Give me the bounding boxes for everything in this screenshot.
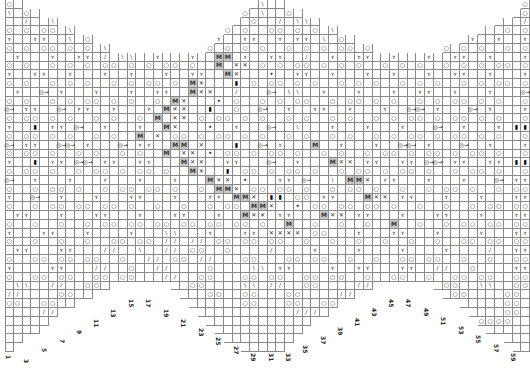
chart-cell xyxy=(259,18,268,27)
chart-cell: M xyxy=(215,185,224,194)
twist-icon: ʏ xyxy=(40,229,48,237)
chart-cell xyxy=(14,185,23,194)
yarn-over-icon: ○ xyxy=(434,79,442,87)
chart-cell: ✕ xyxy=(276,229,285,238)
chart-cell xyxy=(416,185,425,194)
yarn-over-icon: ○ xyxy=(460,290,468,298)
chart-cell: ○ xyxy=(5,202,14,211)
chart-cell xyxy=(180,185,189,194)
chart-cell xyxy=(443,167,452,176)
chart-cell: ○ xyxy=(5,167,14,176)
chart-cell xyxy=(40,79,49,88)
chart-cell: ○ xyxy=(338,62,347,71)
chart-cell xyxy=(486,299,495,308)
twist-icon: ʏ xyxy=(23,246,31,254)
yarn-over-icon: ○ xyxy=(23,150,31,158)
chart-cell xyxy=(259,255,268,264)
chart-cell: ʏ xyxy=(486,88,495,97)
chart-cell xyxy=(66,211,75,220)
twist-icon: ʏ xyxy=(6,70,13,78)
yarn-over-icon: ○ xyxy=(381,167,389,175)
k2tog-icon: / xyxy=(486,246,494,254)
bobble-icon: ▮ xyxy=(31,158,39,166)
chart-cell xyxy=(390,238,399,247)
chart-cell xyxy=(259,317,268,326)
yarn-over-icon: ○ xyxy=(408,132,416,140)
chart-cell: ○ xyxy=(434,132,443,141)
twist-icon: ʏ xyxy=(486,70,494,78)
chart-cell: ○ xyxy=(521,282,530,291)
twist-icon: ʏ xyxy=(276,35,284,43)
chart-cell xyxy=(128,255,137,264)
yarn-over-icon: ○ xyxy=(31,273,39,281)
ssk-icon: \ xyxy=(294,18,302,26)
chart-cell: ○ xyxy=(486,202,495,211)
chart-cell: ○ xyxy=(224,132,233,141)
chart-cell: ○ xyxy=(66,255,75,264)
chart-cell xyxy=(486,326,495,335)
yarn-over-icon: ○ xyxy=(119,150,127,158)
chart-cell xyxy=(469,79,478,88)
chart-cell xyxy=(311,114,320,123)
chart-cell: ○ xyxy=(486,238,495,247)
chart-cell xyxy=(495,255,504,264)
chart-cell xyxy=(163,211,172,220)
chart-cell: ◎→ xyxy=(469,106,478,115)
yarn-over-icon: ○ xyxy=(521,26,529,34)
chart-cell: ○ xyxy=(233,202,242,211)
twist-icon: ʏ xyxy=(66,246,74,254)
chart-cell xyxy=(513,97,522,106)
yarn-over-icon: ○ xyxy=(276,97,284,105)
chart-cell: ʏ xyxy=(154,53,163,62)
chart-cell: M xyxy=(329,158,338,167)
chart-cell: ○ xyxy=(408,132,417,141)
twist-icon: ʏ xyxy=(58,264,66,272)
chart-cell xyxy=(101,141,110,150)
chart-cell: ○ xyxy=(189,62,198,71)
chart-cell: ʏ xyxy=(373,158,382,167)
chart-cell: ʏ xyxy=(58,88,67,97)
chart-cell: ʏ xyxy=(320,106,329,115)
chart-cell: ○ xyxy=(198,273,207,282)
cross-icon: ✕ xyxy=(198,141,206,149)
k2tog-icon: / xyxy=(355,282,363,290)
chart-cell: ʏ xyxy=(513,229,522,238)
chart-cell: ○ xyxy=(119,185,128,194)
twist-icon: ʏ xyxy=(241,229,249,237)
chart-cell xyxy=(31,18,40,27)
chart-cell: ○ xyxy=(504,299,513,308)
chart-cell: / xyxy=(163,273,172,282)
twist-icon: ʏ xyxy=(163,88,171,96)
yarn-over-icon: ○ xyxy=(163,220,171,228)
twist-icon: ʏ xyxy=(233,158,241,166)
chart-cell xyxy=(250,114,259,123)
chart-cell xyxy=(31,229,40,238)
twist-icon: ʏ xyxy=(40,70,48,78)
chart-cell: ✕ xyxy=(338,211,347,220)
chart-cell: ʏ xyxy=(66,70,75,79)
chart-cell xyxy=(259,194,268,203)
twist-icon: ʏ xyxy=(469,35,477,43)
chart-cell: ○ xyxy=(294,255,303,264)
chart-cell xyxy=(451,238,460,247)
chart-cell xyxy=(14,264,23,273)
chart-cell: ○ xyxy=(390,273,399,282)
chart-cell xyxy=(154,273,163,282)
chart-cell xyxy=(145,53,154,62)
chart-cell: ✕ xyxy=(171,114,180,123)
chart-cell xyxy=(338,176,347,185)
chart-cell: ʏ xyxy=(250,35,259,44)
chart-cell xyxy=(469,44,478,53)
yarn-over-icon: ○ xyxy=(346,185,354,193)
yarn-over-icon: ○ xyxy=(478,79,486,87)
twist-icon: ʏ xyxy=(451,158,459,166)
k2tog-icon: / xyxy=(110,246,118,254)
chart-cell xyxy=(495,211,504,220)
yarn-over-icon: ○ xyxy=(49,62,57,70)
chart-cell xyxy=(66,150,75,159)
yarn-over-icon: ○ xyxy=(294,299,302,307)
chart-cell xyxy=(250,88,259,97)
chart-cell xyxy=(355,123,364,132)
yarn-over-icon: ○ xyxy=(6,220,13,228)
chart-cell: ○ xyxy=(513,238,522,247)
